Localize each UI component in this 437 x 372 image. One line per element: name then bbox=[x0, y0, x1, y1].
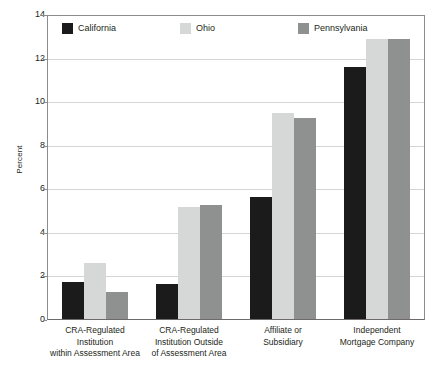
x-axis-category-label: IndependentMortgage Company bbox=[321, 325, 433, 348]
bar-group bbox=[250, 15, 316, 319]
y-axis-tick-label: 4 bbox=[5, 228, 45, 237]
legend-item[interactable]: California bbox=[62, 23, 116, 34]
y-axis-tick-mark bbox=[43, 320, 47, 321]
bar bbox=[200, 205, 222, 319]
legend-swatch bbox=[62, 23, 73, 34]
legend-label: California bbox=[78, 23, 116, 33]
bar-groups bbox=[48, 15, 424, 319]
bar bbox=[388, 39, 410, 319]
bar-group bbox=[344, 15, 410, 319]
legend-label: Ohio bbox=[196, 23, 215, 33]
bar bbox=[106, 292, 128, 319]
bar bbox=[344, 67, 366, 319]
bar bbox=[84, 263, 106, 319]
y-axis-tick-label: 12 bbox=[5, 54, 45, 63]
x-axis-label-line: Mortgage Company bbox=[321, 337, 433, 349]
y-axis-tick-label: 8 bbox=[5, 141, 45, 150]
y-axis-tick-label: 10 bbox=[5, 97, 45, 106]
bar-chart: Percent 02468101214 CaliforniaOhioPennsy… bbox=[0, 0, 437, 372]
bar-group bbox=[62, 15, 128, 319]
bar bbox=[62, 282, 84, 319]
x-axis-category-labels: CRA-RegulatedInstitutionwithin Assessmen… bbox=[48, 325, 424, 370]
bar-group bbox=[156, 15, 222, 319]
legend-swatch bbox=[298, 23, 309, 34]
y-axis-tick-label: 14 bbox=[5, 10, 45, 19]
legend-item[interactable]: Ohio bbox=[180, 23, 215, 34]
bar bbox=[250, 197, 272, 319]
bar bbox=[294, 118, 316, 319]
y-axis-tick-label: 6 bbox=[5, 184, 45, 193]
bar bbox=[178, 207, 200, 319]
x-axis-label-line: Independent bbox=[321, 325, 433, 337]
legend-label: Pennsylvania bbox=[314, 23, 368, 33]
bar bbox=[156, 284, 178, 319]
x-axis-label-line: of Assessment Area bbox=[133, 348, 245, 360]
bar bbox=[366, 39, 388, 319]
legend-item[interactable]: Pennsylvania bbox=[298, 23, 368, 34]
bar bbox=[272, 113, 294, 319]
y-axis-tick-label: 0 bbox=[5, 315, 45, 324]
y-axis-tick-label: 2 bbox=[5, 271, 45, 280]
legend-swatch bbox=[180, 23, 191, 34]
